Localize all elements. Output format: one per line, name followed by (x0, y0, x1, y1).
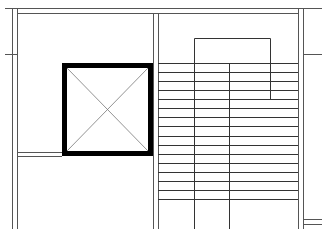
background (0, 0, 327, 243)
floor-plan-diagram (0, 0, 327, 243)
